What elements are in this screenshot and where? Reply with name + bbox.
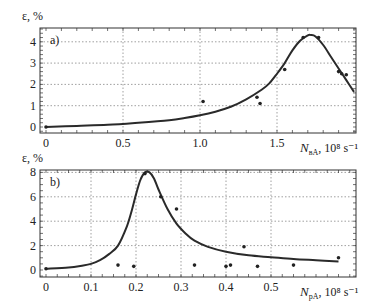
data-point xyxy=(201,100,205,104)
x-tick-label: 0.5 xyxy=(116,136,131,150)
x-axis-subscript-b: pA xyxy=(309,292,319,301)
plot-frame-a xyxy=(40,28,356,133)
figure: ε, % 00.51.01.5 01234 a) NвА, 10⁸ s⁻¹ ε,… xyxy=(0,0,379,308)
data-point xyxy=(175,207,179,211)
fit-curve-b xyxy=(46,172,339,269)
x-axis-label-a: NвА, 10⁸ s⁻¹ xyxy=(299,140,358,157)
y-tick-label: 2 xyxy=(30,239,36,253)
y-tick-label: 2 xyxy=(30,77,36,91)
chart-panel-a: ε, % 00.51.01.5 01234 a) NвА, 10⁸ s⁻¹ xyxy=(22,9,358,157)
x-tick-label: 1.5 xyxy=(270,136,285,150)
x-axis-units-b: , 10⁸ s⁻¹ xyxy=(318,285,358,299)
minor-ticks-b xyxy=(40,170,356,277)
data-point xyxy=(242,245,246,249)
x-tick-label: 0.5 xyxy=(264,280,279,294)
x-tick-label: 0.1 xyxy=(84,280,99,294)
y-tick-label: 4 xyxy=(30,35,36,49)
data-point xyxy=(116,263,120,267)
x-tick-labels-b: 00.10.20.30.40.5 xyxy=(43,280,279,294)
data-point xyxy=(317,36,321,40)
data-point xyxy=(337,70,341,74)
chart-panel-b: ε, % 00.10.20.30.40.5 02468 b) NpA, 10⁸ … xyxy=(22,151,359,301)
y-axis-label-b: ε, % xyxy=(22,151,43,165)
data-point xyxy=(193,263,197,267)
y-tick-label: 1 xyxy=(30,99,36,113)
x-tick-label: 0 xyxy=(43,136,49,150)
y-tick-labels-a: 01234 xyxy=(30,35,36,134)
data-point xyxy=(340,72,344,76)
gridlines-b xyxy=(40,170,356,277)
x-tick-label: 0 xyxy=(43,280,49,294)
data-point xyxy=(301,36,305,40)
y-tick-label: 0 xyxy=(30,120,36,134)
data-point xyxy=(292,263,296,267)
y-tick-label: 4 xyxy=(30,214,36,228)
data-point xyxy=(229,263,233,267)
y-axis-label-a: ε, % xyxy=(22,9,43,23)
data-point xyxy=(143,172,147,176)
minor-ticks-a xyxy=(40,28,356,133)
y-tick-label: 3 xyxy=(30,56,36,70)
data-point xyxy=(44,125,48,129)
data-points-a xyxy=(44,36,348,129)
panel-label-a: a) xyxy=(50,33,59,47)
y-tick-label: 8 xyxy=(30,165,36,179)
data-point xyxy=(44,267,48,271)
data-point xyxy=(337,256,341,260)
data-point xyxy=(159,195,163,199)
y-tick-label: 6 xyxy=(30,190,36,204)
panel-label-b: b) xyxy=(50,175,60,189)
data-point xyxy=(345,73,349,77)
data-point xyxy=(255,95,259,99)
x-tick-label: 0.2 xyxy=(129,280,144,294)
x-tick-labels-a: 00.51.01.5 xyxy=(43,136,285,150)
x-axis-subscript-a: вА xyxy=(309,148,319,157)
y-tick-labels-b: 02468 xyxy=(30,165,36,277)
x-tick-label: 0.3 xyxy=(174,280,189,294)
data-point xyxy=(132,265,136,269)
plot-frame-b xyxy=(40,170,356,277)
data-point xyxy=(256,265,260,269)
data-point xyxy=(283,68,287,72)
x-tick-label: 0.4 xyxy=(219,280,234,294)
x-tick-label: 1.0 xyxy=(193,136,208,150)
data-point xyxy=(258,102,262,106)
x-axis-label-b: NpA, 10⁸ s⁻¹ xyxy=(299,284,359,301)
y-tick-label: 0 xyxy=(30,263,36,277)
gridlines-a xyxy=(40,28,356,133)
x-axis-units-a: , 10⁸ s⁻¹ xyxy=(318,141,358,155)
data-point xyxy=(224,265,228,269)
